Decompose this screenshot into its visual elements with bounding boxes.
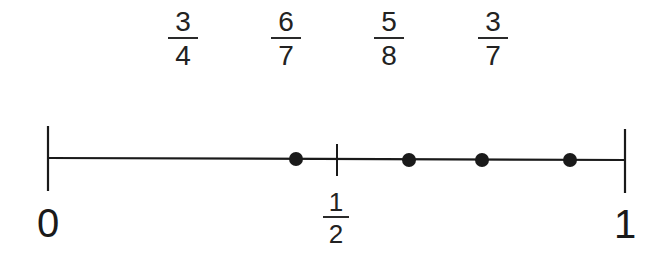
point-dot xyxy=(402,153,416,167)
point-dot xyxy=(563,153,577,167)
fraction-numerator: 1 xyxy=(316,189,356,215)
point-dot xyxy=(289,152,303,166)
fraction-denominator: 2 xyxy=(316,221,356,247)
label-one-half: 1 2 xyxy=(316,189,356,247)
point-dot xyxy=(475,153,489,167)
label-zero: 0 xyxy=(28,203,68,243)
label-one: 1 xyxy=(605,204,645,244)
